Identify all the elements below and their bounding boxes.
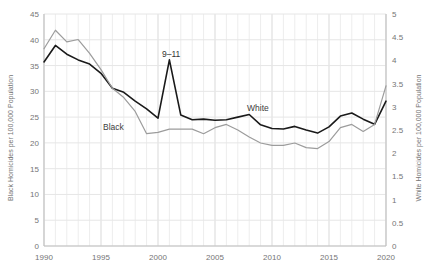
left-tick-label: 15 — [30, 165, 39, 174]
chart-canvas: 1990199520002005201020152020 05101520253… — [0, 0, 433, 275]
left-tick-label: 5 — [35, 216, 40, 225]
series-label-black: Black — [103, 122, 125, 132]
x-tick-label: 2020 — [377, 253, 395, 262]
right-tick-label: 3.5 — [392, 80, 404, 89]
annotation-label-nine-eleven: 9–11 — [162, 49, 181, 59]
right-tick-label: 1.5 — [392, 172, 404, 181]
x-tick-label: 1995 — [92, 253, 110, 262]
right-tick-label: 0 — [392, 242, 397, 251]
left-tick-label: 35 — [30, 62, 39, 71]
right-tick-label: 3 — [392, 103, 397, 112]
left-tick-label: 30 — [30, 87, 39, 96]
right-tick-label: 2.5 — [392, 126, 404, 135]
x-tick-label: 1990 — [35, 253, 53, 262]
left-tick-label: 0 — [35, 242, 40, 251]
right-axis-title: White Homicides per 100,000 Population — [415, 74, 423, 201]
right-tick-labels: 00.511.522.533.544.55 — [392, 10, 404, 251]
left-tick-label: 25 — [30, 113, 39, 122]
x-tick-label: 2000 — [149, 253, 167, 262]
right-tick-label: 1 — [392, 196, 397, 205]
series-label-white: White — [247, 103, 269, 113]
left-tick-label: 20 — [30, 139, 39, 148]
x-tick-label: 2015 — [320, 253, 338, 262]
left-tick-label: 40 — [30, 36, 39, 45]
left-tick-labels: 051015202530354045 — [30, 10, 39, 251]
left-tick-label: 45 — [30, 10, 39, 19]
right-tick-label: 0.5 — [392, 219, 404, 228]
right-tick-label: 5 — [392, 10, 397, 19]
right-tick-label: 4.5 — [392, 33, 404, 42]
gridlines — [44, 14, 386, 246]
x-tick-label: 2005 — [206, 253, 224, 262]
right-tick-label: 4 — [392, 56, 397, 65]
right-tick-label: 2 — [392, 149, 397, 158]
x-tick-label: 2010 — [263, 253, 281, 262]
left-axis-title: Black Homicides per 100,000 Population — [7, 75, 15, 201]
left-tick-label: 10 — [30, 190, 39, 199]
homicide-rate-chart: 1990199520002005201020152020 05101520253… — [0, 0, 433, 275]
x-tick-labels: 1990199520002005201020152020 — [35, 253, 395, 262]
